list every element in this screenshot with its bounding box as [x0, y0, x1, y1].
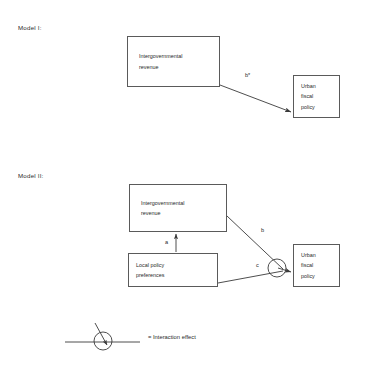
legend-interaction-circle-icon	[94, 332, 112, 350]
interaction-effect-circle-icon	[268, 259, 286, 277]
diagram-vector-layer	[0, 0, 365, 368]
arrow-b-star	[220, 85, 291, 112]
arrow-b	[227, 216, 283, 269]
arrow-c	[218, 271, 283, 283]
path-diagram: Model I: Intergovernmental revenue Urban…	[0, 0, 365, 368]
